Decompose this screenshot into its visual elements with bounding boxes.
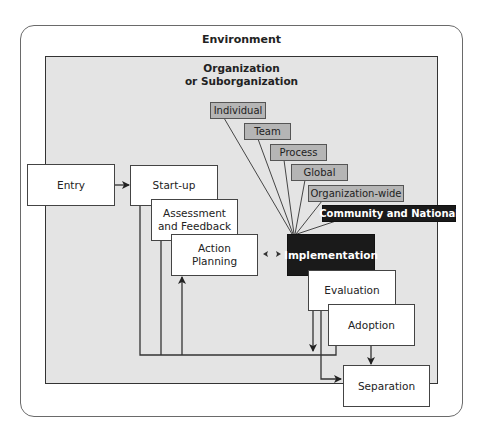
phase-separation: Separation	[343, 365, 430, 407]
assessment-line2: and Feedback	[158, 220, 231, 233]
action-line1: Action	[198, 242, 231, 255]
phase-action-planning: Action Planning	[171, 234, 258, 276]
phase-adoption: Adoption	[328, 304, 415, 346]
level-community-and-national: Community and National	[322, 205, 456, 222]
level-individual: Individual	[210, 102, 266, 119]
level-organization-wide: Organization-wide	[308, 185, 404, 202]
level-team: Team	[244, 123, 291, 140]
level-global: Global	[291, 164, 348, 181]
level-process: Process	[270, 144, 327, 161]
assessment-line1: Assessment	[163, 207, 226, 220]
action-line2: Planning	[192, 255, 237, 268]
phase-entry: Entry	[27, 164, 115, 206]
